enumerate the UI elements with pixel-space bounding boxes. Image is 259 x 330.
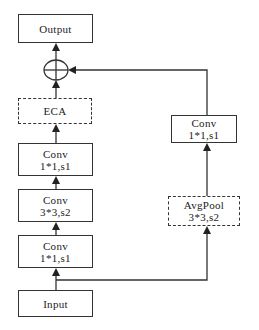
- input-box: Input: [18, 290, 93, 317]
- avgpool-label: AvgPool: [184, 199, 224, 211]
- conv-3x3-s2-box: Conv 3*3,s2: [18, 189, 93, 222]
- conv-label: Conv: [43, 148, 68, 160]
- conv-params: 3*3,s2: [40, 206, 71, 218]
- eca-box: ECA: [18, 98, 92, 124]
- conv-label: Conv: [43, 240, 68, 252]
- shortcut-conv-box: Conv 1*1,s1: [171, 115, 237, 143]
- add-operator-icon: [44, 60, 68, 80]
- conv-1x1-s1-bottom-box: Conv 1*1,s1: [18, 235, 93, 268]
- avgpool-box: AvgPool 3*3,s2: [168, 196, 240, 226]
- conv-label: Conv: [43, 194, 68, 206]
- conv-params: 1*1,s1: [40, 252, 71, 264]
- output-box: Output: [18, 14, 93, 43]
- conv-1x1-s1-top-box: Conv 1*1,s1: [18, 143, 93, 176]
- eca-label: ECA: [44, 105, 67, 117]
- conv-label: Conv: [191, 117, 216, 129]
- avgpool-params: 3*3,s2: [189, 211, 220, 223]
- conv-params: 1*1,s1: [189, 129, 220, 141]
- output-label: Output: [39, 23, 71, 35]
- input-label: Input: [43, 298, 68, 310]
- conv-params: 1*1,s1: [40, 160, 71, 172]
